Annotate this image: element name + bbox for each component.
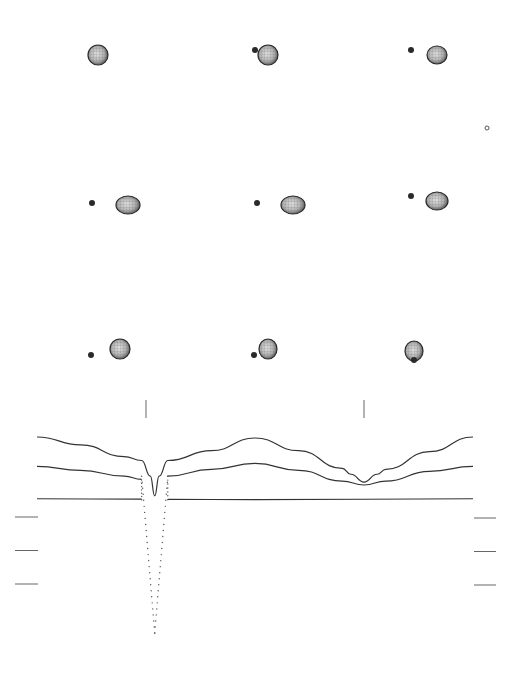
binary-star-figure bbox=[0, 0, 522, 678]
eclipse-dot bbox=[167, 487, 168, 488]
eclipse-dot bbox=[146, 536, 147, 537]
eclipse-dot bbox=[152, 608, 153, 609]
eclipse-dot bbox=[164, 512, 165, 513]
phase-panel bbox=[88, 45, 108, 65]
eclipse-dot bbox=[141, 483, 142, 484]
eclipse-dot bbox=[148, 560, 149, 561]
primary-star-mesh bbox=[111, 340, 129, 358]
eclipse-dot bbox=[156, 614, 157, 615]
eclipse-dot bbox=[154, 632, 155, 633]
light-curve-lower bbox=[168, 499, 473, 500]
companion-star bbox=[251, 352, 257, 358]
eclipse-dot bbox=[143, 506, 144, 507]
eclipse-dot bbox=[150, 584, 151, 585]
phase-panel bbox=[88, 339, 130, 359]
eclipse-dot bbox=[141, 499, 142, 500]
eclipse-dot bbox=[141, 486, 142, 487]
primary-star-mesh bbox=[259, 46, 277, 64]
eclipse-dot bbox=[162, 542, 163, 543]
eclipse-dot bbox=[166, 494, 167, 495]
eclipse-dot bbox=[152, 602, 153, 603]
eclipse-dot bbox=[159, 578, 160, 579]
phase-panel bbox=[251, 339, 277, 359]
phase-panel bbox=[254, 196, 305, 214]
eclipse-dot bbox=[148, 566, 149, 567]
eclipse-dot bbox=[153, 614, 154, 615]
eclipse-dot bbox=[141, 479, 142, 480]
eclipse-dot bbox=[161, 548, 162, 549]
light-curve-middle bbox=[168, 463, 473, 485]
eclipse-dot bbox=[167, 495, 168, 496]
eclipse-dot bbox=[158, 584, 159, 585]
companion-star bbox=[408, 47, 414, 53]
eclipse-dot bbox=[165, 506, 166, 507]
eclipse-dot bbox=[151, 596, 152, 597]
phase-panels-grid bbox=[88, 45, 448, 363]
phase-panel bbox=[405, 341, 423, 363]
eclipse-dot bbox=[167, 482, 168, 483]
eclipse-dot bbox=[155, 626, 156, 627]
companion-star bbox=[254, 200, 260, 206]
light-curve-middle bbox=[37, 466, 142, 479]
eclipse-dot bbox=[159, 572, 160, 573]
eclipse-dot bbox=[157, 602, 158, 603]
eclipse-dot bbox=[144, 512, 145, 513]
companion-star bbox=[252, 47, 258, 53]
eclipse-dot bbox=[163, 524, 164, 525]
eclipse-dot bbox=[167, 483, 168, 484]
companion-star bbox=[88, 352, 94, 358]
eclipse-dot bbox=[142, 494, 143, 495]
primary-star-mesh bbox=[282, 197, 304, 213]
eclipse-dot bbox=[149, 578, 150, 579]
eclipse-dot bbox=[141, 476, 142, 477]
eclipse-dot bbox=[165, 500, 166, 501]
eclipse-dot bbox=[160, 560, 161, 561]
light-curves bbox=[15, 400, 496, 634]
eclipse-dot bbox=[149, 572, 150, 573]
eclipse-dot bbox=[144, 518, 145, 519]
eclipse-dot bbox=[147, 554, 148, 555]
eclipse-dot bbox=[167, 479, 168, 480]
phase-panel bbox=[89, 196, 140, 214]
phase-panel bbox=[408, 46, 447, 64]
eclipse-dot bbox=[161, 554, 162, 555]
eclipse-dot bbox=[150, 590, 151, 591]
eclipse-dot bbox=[141, 492, 142, 493]
eclipse-dot bbox=[158, 590, 159, 591]
eclipse-dot bbox=[163, 530, 164, 531]
eclipse-dot bbox=[142, 488, 143, 489]
eclipse-dot bbox=[146, 542, 147, 543]
eclipse-dot bbox=[157, 596, 158, 597]
eclipse-dot bbox=[141, 489, 142, 490]
primary-star-mesh bbox=[260, 340, 276, 358]
eclipse-dot bbox=[141, 496, 142, 497]
companion-star bbox=[89, 200, 95, 206]
eclipse-dot bbox=[164, 518, 165, 519]
primary-star-mesh bbox=[428, 47, 446, 63]
small-circle-marker bbox=[485, 126, 489, 130]
eclipse-dot bbox=[162, 536, 163, 537]
phase-panel bbox=[252, 45, 278, 65]
primary-star-mesh bbox=[427, 193, 447, 209]
eclipse-dot bbox=[160, 566, 161, 567]
companion-star bbox=[411, 357, 417, 363]
eclipse-dot bbox=[155, 620, 156, 621]
eclipse-dot bbox=[147, 548, 148, 549]
primary-star-mesh bbox=[89, 46, 107, 64]
light-curve-upper bbox=[37, 437, 473, 496]
eclipse-dot bbox=[167, 499, 168, 500]
eclipse-dot bbox=[156, 608, 157, 609]
companion-star bbox=[408, 193, 414, 199]
primary-star-mesh bbox=[117, 197, 139, 213]
eclipse-dot bbox=[145, 524, 146, 525]
eclipse-dot bbox=[145, 530, 146, 531]
eclipse-dot bbox=[167, 476, 168, 477]
eclipse-dot bbox=[167, 491, 168, 492]
eclipse-dot bbox=[143, 500, 144, 501]
eclipse-dot bbox=[153, 620, 154, 621]
phase-panel bbox=[408, 192, 448, 210]
